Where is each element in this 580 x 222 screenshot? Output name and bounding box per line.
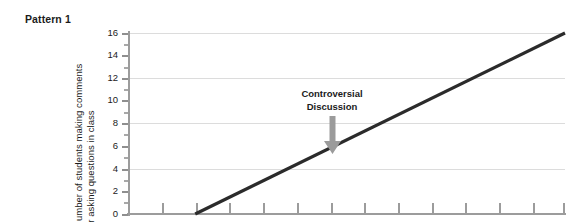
- chart-screenshot: Pattern 1 Number of students making comm…: [0, 0, 580, 222]
- annotation-label-line-2: Discussion: [282, 101, 382, 114]
- series-line-students: [195, 33, 565, 214]
- down-arrow-icon: [322, 116, 344, 156]
- annotation-label: Controversial Discussion: [282, 88, 382, 113]
- annotation-label-line-1: Controversial: [282, 88, 382, 101]
